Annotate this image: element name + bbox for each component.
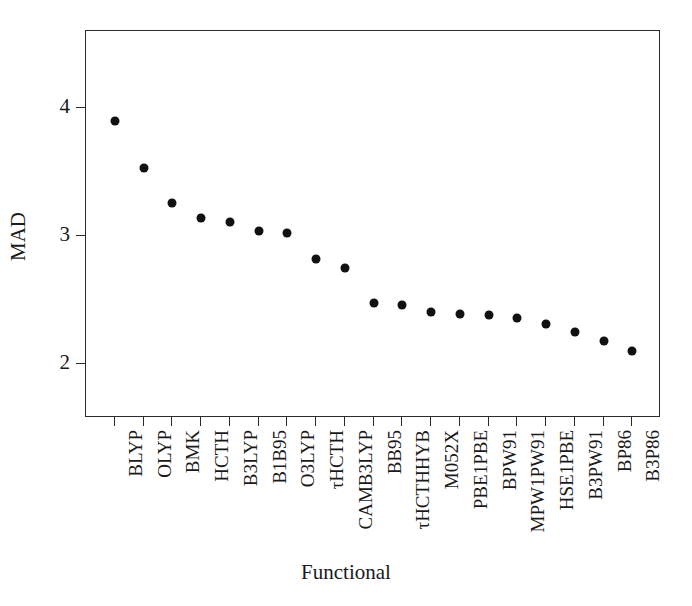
x-tick-label: HSE1PBE — [556, 430, 578, 510]
data-point — [110, 116, 119, 125]
data-point — [628, 347, 637, 356]
x-tick-label: BP86 — [614, 430, 636, 472]
y-tick-mark — [76, 235, 85, 236]
data-point — [427, 307, 436, 316]
x-tick-mark — [143, 417, 144, 426]
x-tick-label: MPW1PW91 — [527, 430, 549, 532]
x-tick-mark — [574, 417, 575, 426]
x-tick-label: OLYP — [154, 430, 176, 478]
x-tick-label: M052X — [441, 430, 463, 489]
x-tick-mark — [286, 417, 287, 426]
plot-area — [86, 31, 659, 416]
x-tick-label: B1B95 — [269, 430, 291, 484]
data-point — [455, 310, 464, 319]
data-point — [254, 226, 263, 235]
x-tick-label: HCTH — [211, 430, 233, 482]
x-tick-label: PBE1PBE — [470, 430, 492, 509]
y-tick-label: 2 — [40, 350, 70, 375]
data-point — [139, 164, 148, 173]
data-point — [484, 311, 493, 320]
x-tick-mark — [430, 417, 431, 426]
data-point — [599, 337, 608, 346]
data-point — [312, 255, 321, 264]
x-tick-label: τHCTH — [326, 430, 348, 489]
x-tick-label: BMK — [182, 430, 204, 473]
x-tick-mark — [488, 417, 489, 426]
x-tick-mark — [258, 417, 259, 426]
x-tick-label: B3PW91 — [585, 430, 607, 500]
y-axis-title: MAD — [6, 212, 31, 261]
x-axis-title: Functional — [0, 560, 692, 585]
x-tick-mark — [516, 417, 517, 426]
x-tick-mark — [171, 417, 172, 426]
x-tick-label: O3LYP — [297, 430, 319, 487]
x-tick-mark — [401, 417, 402, 426]
data-point — [283, 229, 292, 238]
x-tick-label: τHCTHHYB — [412, 430, 434, 529]
y-tick-mark — [76, 107, 85, 108]
x-tick-label: B3P86 — [642, 430, 664, 482]
data-point — [340, 264, 349, 273]
data-point — [168, 198, 177, 207]
data-point — [197, 214, 206, 223]
x-tick-label: B3LYP — [240, 430, 262, 486]
x-tick-mark — [373, 417, 374, 426]
plot-frame — [85, 30, 660, 417]
x-tick-label: CAMB3LYP — [355, 430, 377, 529]
scatter-chart-figure: 234 BLYPOLYPBMKHCTHB3LYPB1B95O3LYPτHCTHC… — [0, 0, 692, 606]
x-tick-mark — [631, 417, 632, 426]
x-tick-mark — [114, 417, 115, 426]
data-point — [369, 298, 378, 307]
x-tick-mark — [545, 417, 546, 426]
y-tick-label: 3 — [40, 222, 70, 247]
x-tick-mark — [344, 417, 345, 426]
x-tick-label: BLYP — [125, 430, 147, 477]
y-tick-label: 4 — [40, 94, 70, 119]
x-tick-mark — [459, 417, 460, 426]
data-point — [225, 217, 234, 226]
data-point — [398, 301, 407, 310]
x-tick-label: BB95 — [384, 430, 406, 474]
x-tick-mark — [229, 417, 230, 426]
x-tick-mark — [315, 417, 316, 426]
x-tick-label: BPW91 — [499, 430, 521, 490]
x-tick-mark — [603, 417, 604, 426]
data-point — [570, 328, 579, 337]
x-tick-mark — [200, 417, 201, 426]
data-point — [542, 320, 551, 329]
data-point — [513, 314, 522, 323]
y-tick-mark — [76, 363, 85, 364]
